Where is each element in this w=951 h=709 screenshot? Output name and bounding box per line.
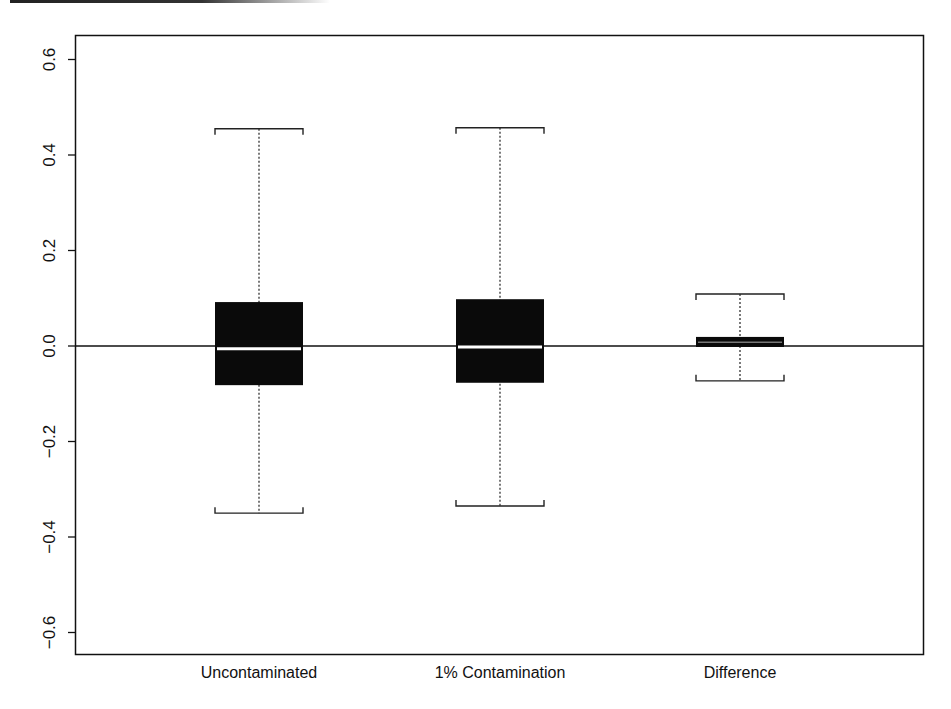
y-tick-label: −0.6 xyxy=(40,616,59,650)
boxplot-chart: −0.6−0.4−0.20.00.20.40.6 Uncontaminated1… xyxy=(0,0,951,709)
y-tick-label: 0.4 xyxy=(40,143,59,167)
iqr-box xyxy=(456,299,544,383)
iqr-box xyxy=(215,302,303,385)
x-category-label: 1% Contamination xyxy=(435,664,566,681)
y-tick-label: −0.4 xyxy=(40,520,59,554)
y-axis: −0.6−0.4−0.20.00.20.40.6 xyxy=(40,48,75,650)
box-group xyxy=(215,128,784,513)
x-category-label: Uncontaminated xyxy=(201,664,318,681)
x-axis-labels: Uncontaminated1% ContaminationDifference xyxy=(201,664,777,681)
y-tick-label: 0.2 xyxy=(40,239,59,263)
y-tick-label: −0.2 xyxy=(40,425,59,459)
y-tick-label: 0.0 xyxy=(40,334,59,358)
x-category-label: Difference xyxy=(704,664,777,681)
box-uncontaminated xyxy=(215,129,303,513)
box-1-contamination xyxy=(456,128,544,506)
box-difference xyxy=(696,294,784,381)
y-tick-label: 0.6 xyxy=(40,48,59,72)
